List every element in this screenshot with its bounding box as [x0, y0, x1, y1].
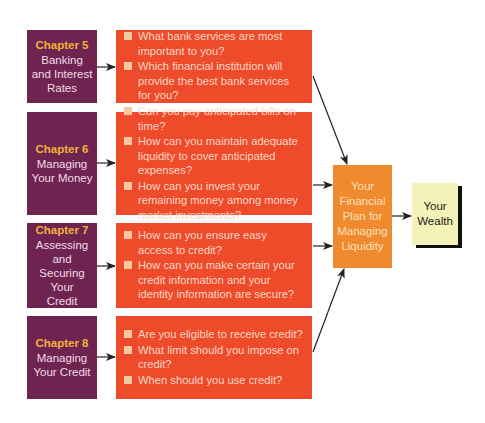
chapter-5-questions: What bank services are most important to…: [116, 30, 312, 103]
chapter-5-box: Chapter 5 Banking and Interest Rates: [27, 30, 97, 103]
chapter-title: Managing Your Money: [31, 157, 93, 185]
chapter-number: Chapter 5: [35, 38, 88, 52]
square-bullet-icon: [124, 330, 132, 338]
financial-plan-label: Your Financial Plan for Managing Liquidi…: [336, 179, 389, 254]
chapter-title: Banking and Interest Rates: [31, 53, 93, 95]
question-item: When should you use credit?: [123, 373, 304, 388]
question-item: What limit should you impose on credit?: [123, 343, 304, 372]
question-item: How can you maintain adequate liquidity …: [123, 134, 304, 178]
square-bullet-icon: [124, 376, 132, 384]
chapter-7-questions: How can you ensure easy access to credit…: [116, 223, 312, 308]
question-item: How can you make certain your credit inf…: [123, 258, 304, 302]
chapter-title: Assessing and Securing Your Credit: [30, 238, 94, 308]
square-bullet-icon: [124, 137, 132, 145]
question-item: Are you eligible to receive credit?: [123, 327, 304, 342]
square-bullet-icon: [124, 182, 132, 190]
square-bullet-icon: [124, 32, 132, 40]
financial-plan-box: Your Financial Plan for Managing Liquidi…: [333, 165, 392, 268]
square-bullet-icon: [124, 107, 132, 115]
square-bullet-icon: [124, 261, 132, 269]
chapter-number: Chapter 8: [35, 336, 88, 350]
square-bullet-icon: [124, 62, 132, 70]
your-wealth-box: Your Wealth: [412, 183, 458, 245]
chapter-number: Chapter 6: [35, 142, 88, 156]
square-bullet-icon: [124, 231, 132, 239]
question-item: How can you ensure easy access to credit…: [123, 228, 304, 257]
chapter-8-box: Chapter 8 Managing Your Credit: [27, 316, 97, 399]
question-item: Can you pay anticipated bills on time?: [123, 104, 304, 133]
arrow-q8-to-plan: [313, 269, 344, 352]
your-wealth-label: Your Wealth: [412, 199, 458, 229]
chapter-6-questions: Can you pay anticipated bills on time? H…: [116, 112, 312, 215]
question-item: Which financial institution will provide…: [123, 59, 304, 103]
chapter-6-box: Chapter 6 Managing Your Money: [27, 112, 97, 215]
chapter-number: Chapter 7: [35, 223, 88, 237]
chapter-8-questions: Are you eligible to receive credit? What…: [116, 316, 312, 399]
question-item: How can you invest your remaining money …: [123, 179, 304, 223]
chapter-title: Managing Your Credit: [31, 351, 93, 379]
arrow-q5-to-plan: [313, 76, 347, 164]
question-item: What bank services are most important to…: [123, 29, 304, 58]
square-bullet-icon: [124, 346, 132, 354]
chapter-7-box: Chapter 7 Assessing and Securing Your Cr…: [27, 223, 97, 308]
